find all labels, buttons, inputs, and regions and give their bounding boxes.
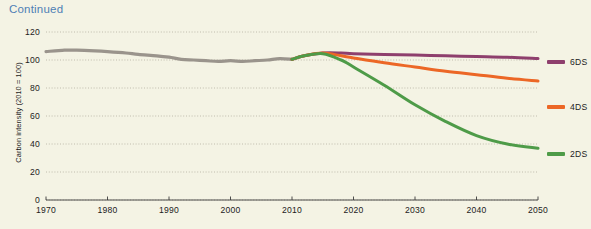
x-tick-label: 2040: [457, 205, 497, 215]
x-tick-label: 1980: [88, 205, 128, 215]
chart-figure: Continued Carbon intensity (2010 = 100) …: [0, 0, 591, 229]
plot-area: [0, 0, 591, 229]
y-tick-label: 0: [14, 195, 40, 205]
legend-item-4ds: 4DS: [547, 101, 587, 113]
y-tick-label: 60: [14, 111, 40, 121]
y-tick-label: 20: [14, 167, 40, 177]
x-tick-label: 2030: [395, 205, 435, 215]
legend-label: 2DS: [570, 149, 587, 159]
x-tick-label: 2010: [272, 205, 312, 215]
x-tick-label: 1970: [26, 205, 66, 215]
series-lines: [46, 50, 538, 148]
legend-swatch-icon: [547, 60, 565, 63]
y-tick-label: 100: [14, 55, 40, 65]
x-tick-label: 2000: [211, 205, 251, 215]
x-tick-label: 1990: [149, 205, 189, 215]
x-tick-label: 2020: [334, 205, 374, 215]
y-tick-label: 40: [14, 139, 40, 149]
page-title: Continued: [9, 3, 63, 15]
legend-item-2ds: 2DS: [547, 148, 587, 160]
y-tick-label: 120: [14, 27, 40, 37]
legend-swatch-icon: [547, 105, 565, 108]
legend-swatch-icon: [547, 152, 565, 155]
legend-label: 6DS: [570, 57, 587, 67]
legend-item-6ds: 6DS: [547, 56, 587, 68]
legend-label: 4DS: [570, 102, 587, 112]
x-tick-label: 2050: [518, 205, 558, 215]
axis-lines: [46, 197, 538, 201]
y-tick-label: 80: [14, 83, 40, 93]
